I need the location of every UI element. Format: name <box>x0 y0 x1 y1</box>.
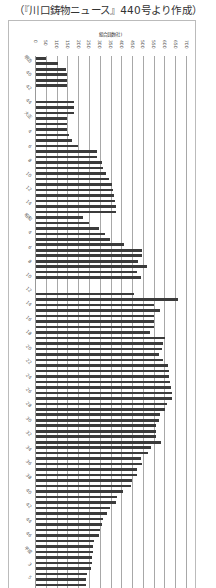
bar <box>36 518 103 521</box>
bar <box>36 512 107 515</box>
bar <box>36 243 124 246</box>
x-tick-label: 250 <box>86 40 91 49</box>
gridline <box>164 56 165 588</box>
bar <box>36 485 131 488</box>
bar <box>36 189 113 192</box>
bar <box>36 167 103 170</box>
y-tick-label: 3 <box>27 562 33 568</box>
bar <box>36 315 154 318</box>
y-tick-label: 14 <box>25 199 33 207</box>
bar <box>36 123 67 126</box>
y-tick-label: 26 <box>25 387 33 395</box>
plot-area <box>35 56 186 588</box>
y-tick-label: 4 <box>27 230 33 236</box>
y-tick-label: 大正 <box>23 109 33 119</box>
y-tick-label: 16 <box>25 315 33 323</box>
bar <box>36 222 89 225</box>
bar <box>36 84 67 87</box>
bar <box>36 479 132 482</box>
bar <box>36 238 110 241</box>
bar <box>36 211 116 214</box>
y-tick-label: 10 <box>25 272 33 280</box>
y-tick-label: 8 <box>27 158 33 164</box>
chart-caption: （『川口鋳物ニュース』440号より作成） <box>0 2 216 17</box>
bar <box>36 562 92 565</box>
bar <box>36 309 160 312</box>
x-tick-label: 400 <box>119 40 124 49</box>
bar <box>36 567 91 570</box>
y-tick-label: 44 <box>25 517 33 525</box>
bar <box>36 474 137 477</box>
bar <box>36 183 112 186</box>
bar <box>36 178 109 181</box>
bar <box>36 161 102 164</box>
x-tick-label: 150 <box>65 40 70 49</box>
bar <box>36 523 102 526</box>
bar <box>36 534 99 537</box>
gridline <box>154 56 155 588</box>
x-tick-label: 100 <box>54 40 59 49</box>
bar <box>36 578 86 581</box>
bar <box>36 507 110 510</box>
bar <box>36 408 165 411</box>
y-tick-label: 平成 <box>23 544 33 554</box>
y-tick-label: 10 <box>25 171 33 179</box>
bar <box>36 276 141 279</box>
x-tick-label: 550 <box>151 40 156 49</box>
bar <box>36 403 167 406</box>
y-tick-label: 34 <box>25 445 33 453</box>
y-tick-label: 14 <box>25 300 33 308</box>
bar <box>36 413 160 416</box>
bar <box>36 370 169 373</box>
y-tick-label: 46 <box>25 531 33 539</box>
gridline <box>175 56 176 588</box>
bar <box>36 501 116 504</box>
bar <box>36 441 161 444</box>
bar <box>36 463 142 466</box>
bar <box>36 271 137 274</box>
y-tick-label: 42 <box>25 84 33 92</box>
bar <box>36 265 147 268</box>
y-tick-label: 22 <box>25 358 33 366</box>
bar <box>36 233 105 236</box>
bar <box>36 156 97 159</box>
y-tick-label: 18 <box>25 329 33 337</box>
y-tick-label: 36 <box>25 459 33 467</box>
bar <box>36 424 156 427</box>
bar <box>36 73 67 76</box>
y-tick-label: 38 <box>25 473 33 481</box>
bar <box>36 62 58 65</box>
bar <box>36 337 165 340</box>
y-tick-label: 28 <box>25 401 33 409</box>
y-tick-label: 44 <box>25 98 33 106</box>
bar <box>36 375 169 378</box>
y-tick-label: 6 <box>27 245 33 251</box>
x-tick-label: 650 <box>173 40 178 49</box>
y-tick-label: 12 <box>25 185 33 193</box>
x-tick-label: 600 <box>162 40 167 49</box>
bar <box>36 320 154 323</box>
x-tick-label: 700 <box>184 40 189 49</box>
bar <box>36 150 97 153</box>
bar <box>36 117 67 120</box>
bar <box>36 200 115 203</box>
x-axis-title: 組合員数(社) <box>35 31 186 37</box>
x-axis-ticks: 0501001502002503003504004505005506006507… <box>0 40 216 54</box>
y-tick-label: 12 <box>25 286 33 294</box>
x-tick-label: 350 <box>108 40 113 49</box>
bar <box>36 227 99 230</box>
bar <box>36 106 74 109</box>
y-tick-label: 5 <box>27 575 33 581</box>
bar <box>36 490 123 493</box>
bar <box>36 172 106 175</box>
bar <box>36 326 154 329</box>
bar <box>36 205 116 208</box>
x-tick-label: 500 <box>140 40 145 49</box>
bar <box>36 260 138 263</box>
bar <box>36 139 72 142</box>
x-tick-label: 200 <box>76 40 81 49</box>
bar <box>36 430 156 433</box>
bar <box>36 551 93 554</box>
bar <box>36 348 162 351</box>
bar <box>36 529 100 532</box>
